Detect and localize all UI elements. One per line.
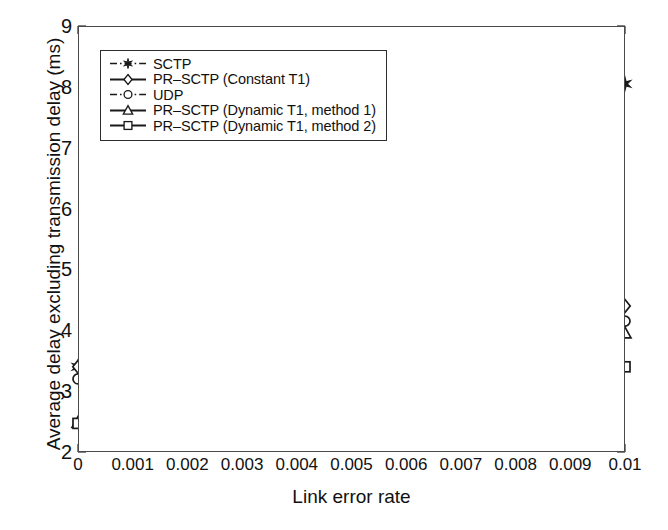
data-point-square [124,122,132,130]
legend-label-4: PR–SCTP (Dynamic T1, method 1) [149,102,376,118]
x-tick-label: 0.007 [440,456,483,473]
legend-item-5: PR–SCTP (Dynamic T1, method 2) [107,118,376,134]
data-point-circle [124,91,132,99]
legend: SCTPPR–SCTP (Constant T1)UDPPR–SCTP (Dyn… [100,50,387,141]
x-tick-label: 0.01 [608,456,641,473]
legend-marker-square-icon [107,118,149,133]
legend-item-4: PR–SCTP (Dynamic T1, method 1) [107,103,376,119]
data-point-diamond [124,74,132,84]
y-tick-label: 9 [61,16,72,36]
legend-item-3: UDP [107,87,376,103]
x-tick-label: 0.004 [276,456,319,473]
legend-marker-star-icon [107,56,149,71]
x-tick-label: 0.006 [385,456,428,473]
x-tick-label: 0 [73,456,82,473]
x-axis-title: Link error rate [78,486,625,508]
x-tick-label: 0.008 [494,456,537,473]
x-tick-label: 0.009 [549,456,592,473]
legend-marker-triangle-icon [107,103,149,118]
y-axis-title: Average delay excluding transmission del… [43,34,65,454]
legend-marker-diamond-icon [107,72,149,87]
x-tick-label: 0.002 [166,456,209,473]
x-tick-label: 0.003 [221,456,264,473]
legend-label-3: UDP [149,87,183,103]
legend-label-1: SCTP [149,56,191,72]
legend-label-5: PR–SCTP (Dynamic T1, method 2) [149,118,376,134]
legend-label-2: PR–SCTP (Constant T1) [149,71,310,87]
x-tick-label: 0.005 [330,456,373,473]
legend-item-1: SCTP [107,56,376,72]
x-tick-label: 0.001 [111,456,154,473]
legend-item-2: PR–SCTP (Constant T1) [107,72,376,88]
x-axis-ticks: 00.0010.0020.0030.0040.0050.0060.0070.00… [0,456,668,482]
chart-figure: 23456789 00.0010.0020.0030.0040.0050.006… [0,0,668,530]
legend-marker-circle-icon [107,87,149,102]
